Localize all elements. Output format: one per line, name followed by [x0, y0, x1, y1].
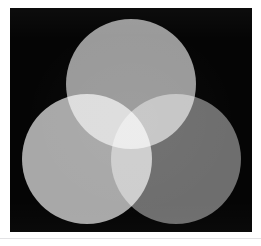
page-margin-top: [0, 0, 261, 8]
page-margin-left: [0, 0, 10, 246]
venn-circle-bottom-right: [111, 94, 241, 224]
page-margin-right: [252, 0, 261, 246]
page-margin-bottom: [0, 232, 261, 246]
figure-root: [0, 0, 261, 246]
additive-mixing-panel: [10, 8, 252, 232]
footer-rule: [0, 238, 261, 239]
blend-stage: [10, 8, 252, 232]
